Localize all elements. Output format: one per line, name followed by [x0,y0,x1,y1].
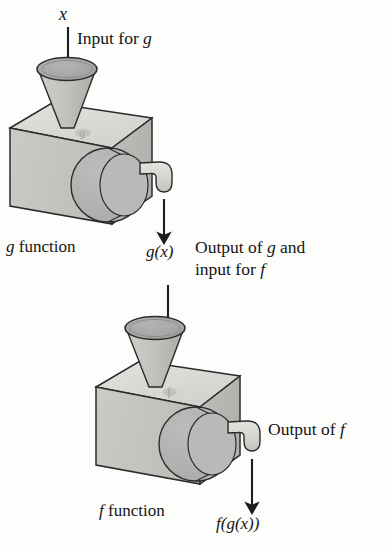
machine-f: f [96,317,260,485]
machine-g-dial [71,148,148,222]
label-input-for-f-variable: f [260,259,265,279]
label-output-of-f-variable: f [340,419,345,439]
label-output-of-f: Output of f [268,420,345,439]
machine-f-funnel-bowl [125,317,185,340]
label-output-of-g-and-input-for-f: Output of g and input for f [195,238,305,278]
label-f-of-g-of-x: f(g(x)) [216,515,259,533]
machine-g-funnel-bowl [37,58,97,81]
label-g-function: g function [6,238,75,256]
label-input-for-g: Input for g [77,29,152,48]
label-output-of-g-line2: input for f [195,260,305,279]
label-input-variable: x [59,5,67,24]
diagram-canvas: g f [0,0,392,547]
label-g-of-x: g(x) [146,243,173,261]
label-f-function: f function [99,502,165,520]
machine-f-dial [159,407,236,481]
label-g-function-variable: g [6,237,15,256]
label-f-function-variable: f [99,501,104,520]
machine-g: g [10,58,172,225]
label-output-of-g-line1: Output of g and [195,237,305,257]
label-input-for-g-variable: g [143,28,152,48]
label-output-of-g-variable: g [267,237,276,257]
